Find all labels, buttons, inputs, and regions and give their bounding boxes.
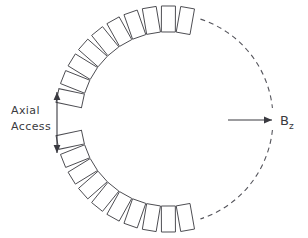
- diagram-canvas: Axial Access B z: [0, 0, 308, 238]
- dashed-bore-arcs: [200, 19, 272, 219]
- coil-block: [142, 6, 160, 34]
- coil-block: [142, 204, 160, 232]
- coil-block: [161, 206, 175, 232]
- lower-coil-arc: [56, 130, 194, 232]
- axial-access-label-line2: Access: [11, 120, 51, 133]
- lower-right-arc: [200, 130, 272, 219]
- field-subscript-label: z: [289, 121, 294, 131]
- field-direction-arrow: [228, 117, 272, 124]
- coil-block: [176, 7, 194, 35]
- coil-block: [176, 203, 194, 231]
- diagram-svg: Axial Access B z: [0, 0, 308, 238]
- field-symbol-label: B: [280, 113, 289, 128]
- axial-access-label-line1: Axial: [11, 104, 40, 117]
- coil-block: [161, 6, 175, 32]
- upper-coil-arc: [56, 6, 194, 108]
- upper-right-arc: [200, 19, 272, 108]
- field-arrowhead-right-icon: [264, 117, 272, 124]
